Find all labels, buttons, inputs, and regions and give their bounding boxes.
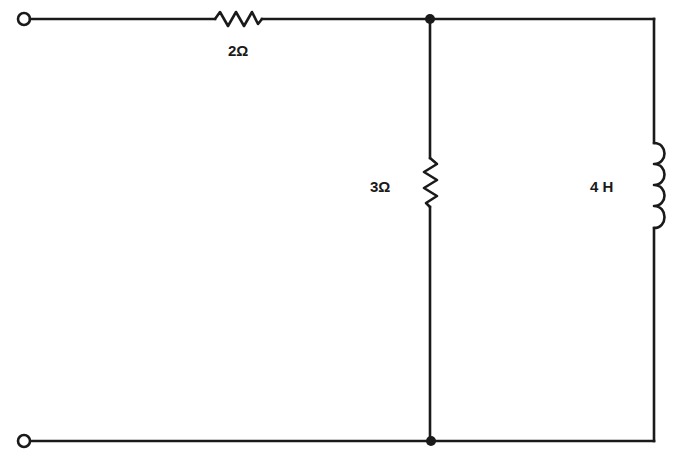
resistor-2ohm-icon bbox=[215, 12, 262, 26]
circuit-diagram: 2Ω 3Ω 4 H bbox=[0, 0, 673, 465]
resistor-2ohm-label: 2Ω bbox=[228, 42, 248, 59]
resistor-3ohm-icon bbox=[424, 158, 437, 207]
inductor-4h-label: 4 H bbox=[590, 178, 613, 195]
inductor-4h-icon bbox=[654, 143, 665, 228]
input-terminal-bottom bbox=[18, 435, 30, 447]
junction-node-bottom bbox=[426, 436, 436, 446]
input-terminal-top bbox=[18, 13, 30, 25]
resistor-3ohm-label: 3Ω bbox=[370, 178, 390, 195]
